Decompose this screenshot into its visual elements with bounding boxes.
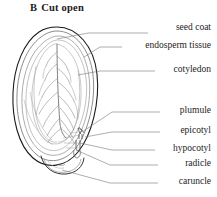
- label-epicotyl: epicotyl: [180, 125, 211, 135]
- label-hypocotyl: hypocotyl: [173, 143, 211, 153]
- label-plumule: plumule: [180, 105, 211, 115]
- cotyledon-veins: [36, 44, 78, 144]
- label-cotyledon: cotyledon: [174, 64, 211, 74]
- leader-radicle: [76, 150, 158, 165]
- leader-lines: [57, 33, 160, 183]
- leader-hypocotyl: [80, 143, 155, 150]
- leader-seed-coat: [57, 33, 148, 39]
- label-radicle: radicle: [185, 158, 211, 168]
- leader-epicotyl: [85, 132, 160, 137]
- leader-plumule: [82, 112, 160, 132]
- leader-caruncle: [62, 170, 158, 183]
- figure-panel: BCut open: [0, 0, 217, 197]
- cotyledon-blade: [24, 44, 81, 145]
- embryo-axis: [63, 127, 84, 158]
- label-seed-coat: seed coat: [176, 22, 211, 32]
- leader-cotyledon: [78, 71, 155, 75]
- seed-coat-outline: [13, 27, 98, 165]
- label-caruncle: caruncle: [179, 176, 211, 186]
- label-endosperm-tissue: endosperm tissue: [145, 40, 211, 50]
